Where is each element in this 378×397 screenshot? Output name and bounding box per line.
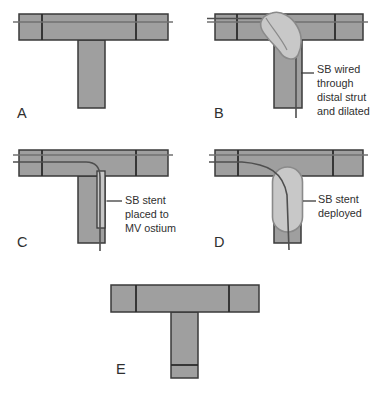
annotation-line: SB stent (125, 193, 176, 207)
side-branch (78, 40, 105, 108)
annotation-line: through (317, 76, 370, 90)
main-vessel (111, 285, 259, 312)
panel-b-label: B (214, 106, 224, 121)
undeployed-sb-stent (97, 171, 105, 228)
annotation-line: deployed (318, 206, 362, 220)
panel-a-label: A (17, 106, 27, 121)
annotation-line: and dilated (317, 104, 370, 118)
panel-a-graphics (13, 14, 173, 108)
annotation-line: SB wired (317, 62, 370, 76)
panel-e-label: E (116, 362, 126, 377)
side-branch (171, 312, 198, 378)
panel-b-annotation: SB wired through distal strut and dilate… (317, 62, 370, 118)
annotation-line: MV ostium (125, 221, 176, 235)
figure: A B C D E SB wired through distal strut … (0, 0, 378, 397)
annotation-line: distal strut (317, 90, 370, 104)
panel-d-label: D (214, 235, 224, 250)
annotation-line: SB stent (318, 192, 362, 206)
annotation-line: placed to (125, 207, 176, 221)
panel-e-graphics (111, 285, 259, 378)
panel-d-annotation: SB stent deployed (318, 192, 362, 220)
panel-c-annotation: SB stent placed to MV ostium (125, 193, 176, 235)
panel-c-label: C (17, 235, 27, 250)
